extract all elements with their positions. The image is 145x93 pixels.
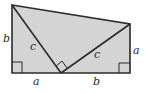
trapezoid-diagram: b a a b c c [0, 0, 145, 93]
trapezoid-shape [12, 5, 130, 73]
label-bottom-left: a [33, 75, 40, 88]
label-right-side: a [133, 44, 140, 57]
label-hyp-right: c [94, 48, 100, 61]
label-hyp-left: c [30, 40, 36, 53]
label-left-side: b [3, 32, 10, 45]
label-bottom-right: b [93, 75, 100, 88]
